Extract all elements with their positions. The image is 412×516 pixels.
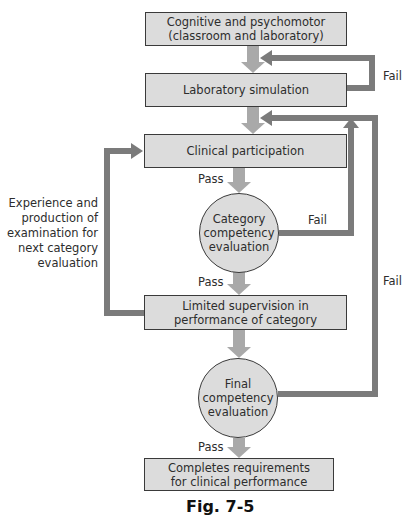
completes-line2: for clinical performance bbox=[168, 475, 310, 489]
node-completes-requirements: Completes requirements for clinical perf… bbox=[144, 458, 334, 491]
flow-arrow-limited-to-final bbox=[227, 330, 251, 358]
flow-arrow-clinical-to-category bbox=[227, 168, 251, 193]
flow-arrow-lab-to-clinical bbox=[241, 107, 265, 134]
node-category-competency-evaluation: Category competency evaluation bbox=[199, 193, 279, 273]
flow-arrow-category-to-limited bbox=[227, 272, 251, 295]
experience-note-line5: evaluation bbox=[0, 256, 98, 271]
edge-label-pass-final: Pass bbox=[198, 440, 223, 454]
final-eval-line1: Final bbox=[203, 377, 274, 391]
experience-loop bbox=[104, 143, 144, 316]
completes-line1: Completes requirements bbox=[168, 461, 310, 475]
figure-caption: Fig. 7-5 bbox=[186, 497, 254, 516]
node-clinical-participation: Clinical participation bbox=[144, 134, 347, 168]
node-clinical-label: Clinical participation bbox=[187, 144, 305, 158]
final-eval-line2: competency bbox=[203, 391, 274, 405]
flow-arrow-final-to-completes bbox=[227, 438, 251, 458]
flow-arrow-cognitive-to-lab bbox=[241, 46, 265, 73]
edge-label-pass-clinical: Pass bbox=[198, 172, 223, 186]
node-final-competency-evaluation: Final competency evaluation bbox=[198, 358, 278, 438]
experience-note-line3: examination for bbox=[0, 226, 98, 241]
category-eval-line2: competency bbox=[204, 226, 275, 240]
experience-note: Experience and production of examination… bbox=[0, 196, 98, 271]
node-limited-supervision: Limited supervision in performance of ca… bbox=[144, 295, 347, 330]
limited-line1: Limited supervision in bbox=[174, 299, 317, 313]
limited-line2: performance of category bbox=[174, 313, 317, 327]
category-eval-line3: evaluation bbox=[204, 240, 275, 254]
node-cognitive-line2: (classroom and laboratory) bbox=[167, 29, 326, 43]
experience-note-line2: production of bbox=[0, 211, 98, 226]
node-laboratory-simulation: Laboratory simulation bbox=[145, 73, 347, 107]
node-cognitive-psychomotor: Cognitive and psychomotor (classroom and… bbox=[145, 12, 347, 46]
edge-label-fail-category: Fail bbox=[308, 213, 327, 227]
experience-note-line1: Experience and bbox=[0, 196, 98, 211]
node-lab-label: Laboratory simulation bbox=[183, 83, 309, 97]
node-cognitive-line1: Cognitive and psychomotor bbox=[167, 15, 326, 29]
edge-label-pass-category: Pass bbox=[198, 275, 223, 289]
category-eval-line1: Category bbox=[204, 212, 275, 226]
edge-label-fail-lab: Fail bbox=[383, 69, 402, 83]
edge-label-fail-final: Fail bbox=[383, 274, 402, 288]
final-eval-line3: evaluation bbox=[203, 405, 274, 419]
experience-note-line4: next category bbox=[0, 241, 98, 256]
